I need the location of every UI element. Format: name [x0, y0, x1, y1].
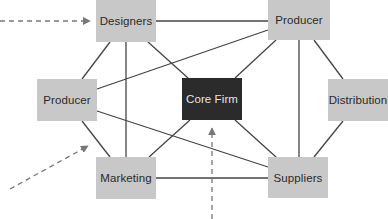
- node-distribution-label: Distribution: [329, 94, 388, 106]
- node-marketing: Marketing: [96, 157, 156, 199]
- edge-producer-left-marketing: [82, 121, 110, 157]
- node-distribution: Distribution: [328, 79, 388, 121]
- node-suppliers-label: Suppliers: [274, 172, 323, 184]
- edge-producer-top-distribution: [314, 40, 343, 79]
- edge-designers-producer-left: [82, 42, 110, 79]
- node-producer-top: Producer: [268, 0, 330, 40]
- network-diagram: Designers Producer Producer Core Firm Di…: [0, 0, 388, 219]
- node-designers-label: Designers: [100, 15, 153, 27]
- dashed-arrow-bottom-left: [10, 146, 88, 189]
- node-designers: Designers: [96, 0, 156, 42]
- edge-core-firm-marketing: [149, 120, 190, 157]
- edge-core-firm-suppliers: [235, 120, 276, 157]
- node-marketing-label: Marketing: [100, 172, 151, 184]
- node-producer-top-label: Producer: [275, 14, 322, 26]
- node-suppliers: Suppliers: [268, 157, 328, 198]
- node-core-firm: Core Firm: [182, 78, 242, 120]
- node-producer-left-label: Producer: [43, 94, 90, 106]
- node-producer-left: Producer: [37, 79, 97, 121]
- edge-distribution-suppliers: [314, 121, 343, 157]
- node-core-firm-label: Core Firm: [186, 93, 238, 105]
- edge-producer-top-core-firm: [235, 40, 276, 78]
